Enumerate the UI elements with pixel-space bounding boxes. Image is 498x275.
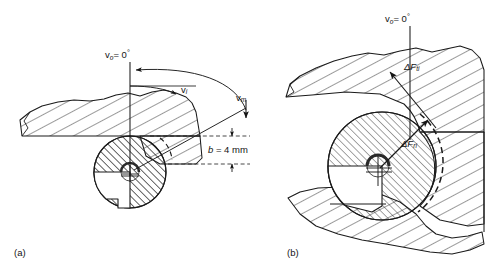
v0-degree-a: ° bbox=[127, 48, 130, 57]
f-ri-subscript-b: ri bbox=[413, 142, 417, 149]
label-depth-panel-a: b = 4 mm bbox=[208, 145, 248, 155]
workpiece-a bbox=[20, 90, 200, 136]
label-v0-panel-b: vo= 0° bbox=[385, 13, 410, 25]
vi-subscript-a: i bbox=[186, 88, 187, 95]
depth-value-a: = 4 mm bbox=[216, 144, 248, 155]
panel-b bbox=[286, 26, 484, 254]
f-ti-subscript-b: ti bbox=[416, 65, 419, 72]
depth-symbol-a: b bbox=[208, 144, 213, 155]
label-vm-panel-a: vm bbox=[236, 93, 246, 104]
panel-a bbox=[20, 62, 250, 208]
v0-equals-a: = 0 bbox=[113, 49, 126, 60]
v0-degree-b: ° bbox=[407, 12, 410, 21]
panel-label-b: (b) bbox=[287, 247, 299, 258]
v0-equals-b: = 0 bbox=[393, 13, 406, 24]
machining-figure bbox=[0, 0, 498, 275]
label-vi-panel-a: vi bbox=[181, 85, 187, 96]
f-ri-symbol-b: ΔF bbox=[401, 138, 413, 149]
f-ti-symbol-b: ΔF bbox=[404, 61, 416, 72]
label-f-ti-panel-b: ΔFti bbox=[404, 62, 419, 73]
panel-label-a: (a) bbox=[14, 247, 26, 258]
label-f-ri-panel-b: ΔFri bbox=[401, 139, 417, 150]
label-v0-panel-a: vo= 0° bbox=[105, 49, 130, 61]
vm-subscript-a: m bbox=[241, 96, 247, 103]
